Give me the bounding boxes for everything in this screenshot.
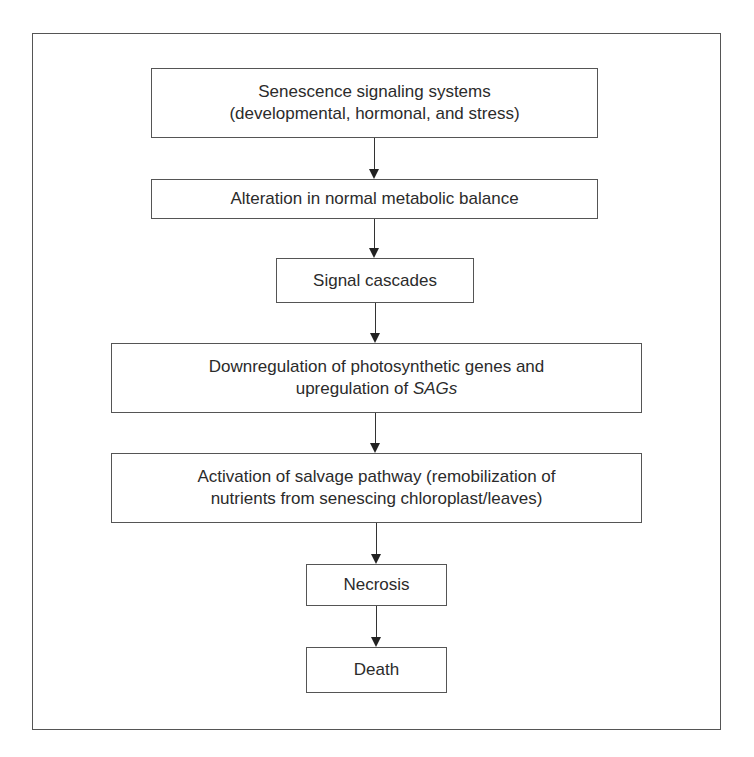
arrow-down-icon bbox=[369, 413, 381, 453]
arrow-down-icon bbox=[368, 219, 380, 258]
node-senescence-signaling: Senescence signaling systems (developmen… bbox=[151, 68, 598, 138]
node-label-line: (developmental, hormonal, and stress) bbox=[229, 103, 519, 125]
node-label-line: upregulation of SAGs bbox=[296, 378, 458, 400]
node-metabolic-alteration: Alteration in normal metabolic balance bbox=[151, 179, 598, 219]
node-death: Death bbox=[306, 647, 447, 693]
sags-italic-term: SAGs bbox=[413, 379, 457, 398]
node-label-line: Senescence signaling systems bbox=[258, 81, 490, 103]
node-label-line: Downregulation of photosynthetic genes a… bbox=[209, 356, 545, 378]
node-label-line: Alteration in normal metabolic balance bbox=[230, 188, 518, 210]
node-signal-cascades: Signal cascades bbox=[276, 258, 474, 303]
node-necrosis: Necrosis bbox=[306, 564, 447, 606]
arrow-down-icon bbox=[368, 138, 380, 179]
node-label-line: nutrients from senescing chloroplast/lea… bbox=[211, 488, 543, 510]
arrow-down-icon bbox=[370, 523, 382, 564]
node-label-text: upregulation of bbox=[296, 379, 413, 398]
node-label-line: Activation of salvage pathway (remobiliz… bbox=[197, 466, 555, 488]
arrow-down-icon bbox=[369, 303, 381, 343]
node-salvage-pathway: Activation of salvage pathway (remobiliz… bbox=[111, 453, 642, 523]
node-gene-regulation: Downregulation of photosynthetic genes a… bbox=[111, 343, 642, 413]
node-label-line: Necrosis bbox=[343, 574, 409, 596]
node-label-line: Signal cascades bbox=[313, 270, 437, 292]
node-label-line: Death bbox=[354, 659, 399, 681]
arrow-down-icon bbox=[370, 606, 382, 647]
